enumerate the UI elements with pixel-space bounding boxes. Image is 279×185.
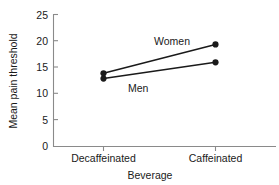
series-line-men xyxy=(104,62,216,78)
x-axis-title: Beverage xyxy=(128,169,173,181)
data-point-men-decaffeinated xyxy=(100,76,106,82)
series-annotation-men: Men xyxy=(128,82,149,94)
y-tick-label-0: 0 xyxy=(42,140,48,152)
y-tick-label-25: 25 xyxy=(36,9,48,21)
series-line-women xyxy=(104,44,216,73)
line-chart: 25 20 15 10 5 0 Decaffeinated Caffeinate… xyxy=(0,0,279,185)
y-axis-title: Mean pain threshold xyxy=(7,33,19,128)
data-point-men-caffeinated xyxy=(212,59,218,65)
y-tick-label-20: 20 xyxy=(36,35,48,47)
series-annotation-women: Women xyxy=(154,35,190,47)
data-point-women-caffeinated xyxy=(212,41,218,47)
y-tick-label-10: 10 xyxy=(36,87,48,99)
y-tick-label-5: 5 xyxy=(42,114,48,126)
data-point-women-decaffeinated xyxy=(100,70,106,76)
x-tick-label-caffeinated: Caffeinated xyxy=(189,152,243,164)
chart-container: 25 20 15 10 5 0 Decaffeinated Caffeinate… xyxy=(0,0,279,185)
x-tick-label-decaffeinated: Decaffeinated xyxy=(71,152,136,164)
y-tick-label-15: 15 xyxy=(36,61,48,73)
